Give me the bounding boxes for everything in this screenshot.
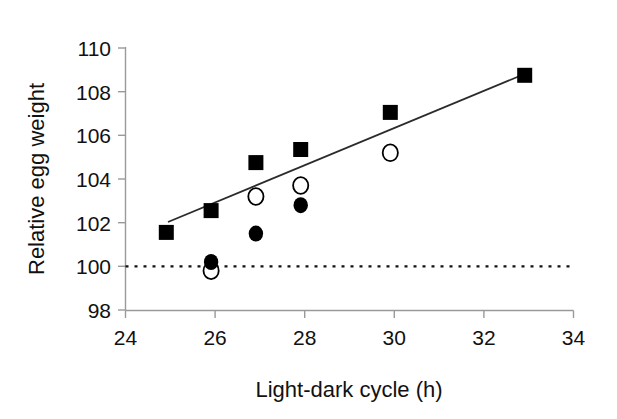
y-axis-ticks: [118, 48, 126, 310]
x-tick-label-24: 24: [114, 326, 138, 349]
data-point-filled-circle: [249, 226, 263, 242]
regression-line: [168, 73, 527, 222]
y-tick-labels: 110 108 106 104 102 100 98: [76, 37, 111, 322]
data-point-square: [383, 105, 398, 120]
data-point-filled-circle: [294, 197, 308, 213]
series-filled-circle: [204, 197, 308, 270]
y-axis-title: Relative egg weight: [24, 83, 49, 275]
data-point-open-circle: [293, 177, 308, 194]
x-tick-label-28: 28: [293, 326, 316, 349]
data-point-square: [204, 203, 219, 218]
y-tick-label-100: 100: [76, 255, 111, 278]
y-tick-label-104: 104: [76, 168, 111, 191]
scatter-plot-canvas: 110 108 106 104 102 100 98 24 26 28 30 3…: [0, 0, 617, 419]
x-tick-label-26: 26: [203, 326, 226, 349]
data-point-square: [293, 142, 308, 157]
x-axis-ticks: [126, 311, 574, 319]
y-tick-label-102: 102: [76, 212, 111, 235]
x-axis-title: Light-dark cycle (h): [255, 377, 442, 402]
data-point-square: [248, 155, 263, 170]
data-point-square: [159, 225, 174, 240]
x-tick-label-30: 30: [383, 326, 406, 349]
y-tick-label-106: 106: [76, 124, 111, 147]
y-tick-label-110: 110: [78, 37, 111, 60]
data-point-open-circle: [248, 188, 263, 205]
data-point-open-circle: [383, 144, 398, 161]
x-tick-label-32: 32: [472, 326, 495, 349]
data-point-filled-circle: [204, 254, 218, 270]
x-tick-label-34: 34: [562, 326, 586, 349]
y-tick-label-98: 98: [88, 299, 111, 322]
x-tick-labels: 24 26 28 30 32 34: [114, 326, 586, 349]
data-point-square: [517, 68, 532, 83]
y-tick-label-108: 108: [76, 81, 111, 104]
chart-figure: 110 108 106 104 102 100 98 24 26 28 30 3…: [0, 0, 617, 419]
